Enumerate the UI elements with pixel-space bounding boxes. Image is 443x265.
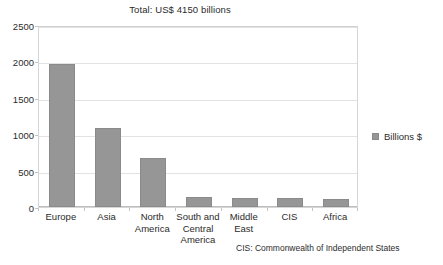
x-axis-tick-label: Africa <box>312 211 358 223</box>
bar-north-america[interactable] <box>140 158 166 208</box>
x-axis-tick-label: CIS <box>267 211 313 223</box>
y-axis-tick-mark <box>35 135 38 136</box>
chart-title: Total: US$ 4150 billions <box>0 4 360 15</box>
legend-label-billions: Billions $ <box>384 131 422 142</box>
y-axis-tick-label: 2500 <box>0 21 34 32</box>
bar-middle-east[interactable] <box>232 198 258 207</box>
bar-europe[interactable] <box>49 64 75 207</box>
bar-chart-figure: Total: US$ 4150 billions 050010001500200… <box>0 0 443 265</box>
gridline <box>39 173 357 174</box>
x-axis-tick-label: North America <box>129 211 175 234</box>
plot-area <box>38 26 358 208</box>
y-axis-tick-mark <box>35 99 38 100</box>
y-axis-tick-labels: 05001000150020002500 <box>0 26 34 208</box>
gridline <box>39 27 357 28</box>
x-axis-tick-label: Europe <box>38 211 84 223</box>
gridline <box>39 63 357 64</box>
bar-south-and-central-america[interactable] <box>186 197 212 207</box>
x-axis-tick-mark <box>357 208 358 211</box>
y-axis-tick-mark <box>35 172 38 173</box>
y-axis-tick-mark <box>35 62 38 63</box>
y-axis-tick-label: 1500 <box>0 93 34 104</box>
bar-cis[interactable] <box>277 198 303 207</box>
x-axis-tick-label: Middle East <box>221 211 267 234</box>
y-axis-tick-label: 500 <box>0 166 34 177</box>
y-axis-tick-label: 0 <box>0 203 34 214</box>
x-axis-tick-label: South and Central America <box>175 211 221 246</box>
bar-asia[interactable] <box>95 128 121 207</box>
bar-africa[interactable] <box>323 199 349 207</box>
footnote-cis: CIS: Commonwealth of Independent States <box>236 243 399 253</box>
gridline <box>39 100 357 101</box>
legend[interactable]: Billions $ <box>372 131 422 142</box>
y-axis-tick-label: 1000 <box>0 130 34 141</box>
y-axis-tick-mark <box>35 26 38 27</box>
x-axis-tick-label: Asia <box>84 211 130 223</box>
gridline <box>39 136 357 137</box>
legend-swatch-billions <box>372 133 379 140</box>
y-axis-tick-label: 2000 <box>0 57 34 68</box>
